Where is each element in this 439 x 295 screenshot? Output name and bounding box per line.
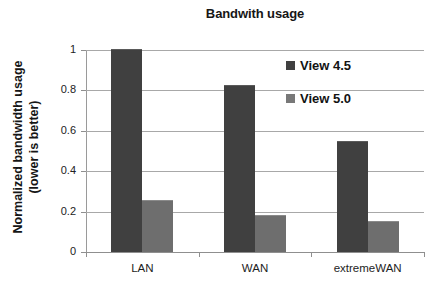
y-axis-tick-label: 0.8 [0,83,76,95]
legend-swatch-icon [286,61,295,70]
legend-item-view-5-0[interactable]: View 5.0 [286,88,351,108]
x-axis-label-lan: LAN [86,262,199,274]
legend-swatch-icon [286,94,295,103]
bar-lan-view-5-0 [142,200,173,253]
y-axis-tick-label: 0.4 [0,164,76,176]
gridline [86,252,424,253]
chart-legend: View 4.5View 5.0 [286,55,351,121]
x-axis-label-extremewan: extremeWAN [311,262,424,274]
legend-label: View 5.0 [300,91,351,106]
bar-extremewan-view-5-0 [368,221,399,252]
chart-title: Bandwith usage [86,6,424,21]
legend-item-view-4-5[interactable]: View 4.5 [286,55,351,75]
bar-extremewan-view-4-5 [337,141,368,252]
bar-wan-view-4-5 [224,85,255,252]
bar-wan-view-5-0 [255,215,286,252]
y-axis-tick-label: 1 [0,43,76,55]
bandwidth-usage-chart: Bandwith usage Normalized bandwidth usag… [0,0,439,295]
y-axis-tick-label: 0.2 [0,205,76,217]
x-axis-tick-mark [424,252,425,257]
bar-lan-view-4-5 [111,49,142,252]
x-axis-label-wan: WAN [199,262,312,274]
y-axis-line [86,50,87,252]
y-axis-tick-label: 0.6 [0,124,76,136]
y-axis-title-line-2: (lower is better) [26,100,42,193]
y-axis-title: Normalized bandwidth usage (lower is bet… [8,35,44,259]
plot-area [86,50,424,252]
legend-label: View 4.5 [300,58,351,73]
y-axis-tick-label: 0 [0,245,76,257]
